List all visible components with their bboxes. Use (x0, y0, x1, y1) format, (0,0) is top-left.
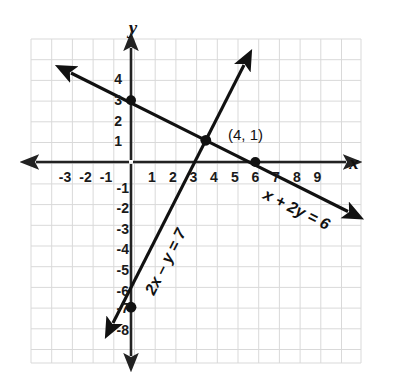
intersection-point-label: (4, 1) (228, 126, 263, 143)
x-tick-label: 3 (190, 169, 198, 185)
y-tick-label: 2 (114, 113, 122, 129)
x-tick-label: -3 (59, 169, 72, 185)
point-0-3 (126, 95, 136, 105)
y-tick-label: -4 (117, 241, 130, 257)
y-tick-label: -5 (117, 262, 130, 278)
y-tick-label: -2 (117, 200, 130, 216)
grid (31, 39, 361, 363)
x-tick-label: 2 (169, 169, 177, 185)
point-4-1 (200, 135, 211, 146)
x-tick-label: 6 (252, 169, 260, 185)
y-tick-label: 4 (114, 71, 122, 87)
y-tick-label: -3 (117, 221, 130, 237)
x-tick-label: 4 (210, 169, 218, 185)
x-tick-label: 7 (272, 169, 280, 185)
x-axis-name: x (348, 152, 359, 173)
x-tick-label: 8 (293, 169, 301, 185)
x-tick-label: 1 (148, 169, 156, 185)
y-axis-name: y (127, 17, 138, 38)
x-tick-label: -1 (100, 169, 113, 185)
y-tick-label: 3 (114, 92, 122, 108)
coordinate-plane-figure: -3 -2 -1 1 2 3 4 5 6 7 8 9 4 3 2 1 -1 -2… (0, 0, 403, 386)
graph-canvas: -3 -2 -1 1 2 3 4 5 6 7 8 9 4 3 2 1 -1 -2… (0, 0, 403, 386)
y-tick-label: -6 (117, 283, 130, 299)
x-tick-label: -2 (79, 169, 92, 185)
y-tick-label: -1 (117, 180, 130, 196)
x-tick-label: 5 (231, 169, 239, 185)
point-6-0 (250, 157, 260, 167)
y-tick-label: 1 (114, 133, 122, 149)
y-tick-label: -7 (117, 300, 130, 316)
x-tick-label: 9 (314, 169, 322, 185)
y-tick-label: -8 (117, 322, 130, 338)
